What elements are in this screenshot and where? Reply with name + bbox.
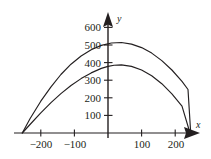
y-axis-label: y xyxy=(116,13,122,24)
x-axis-label: x xyxy=(195,119,201,130)
y-tick-label-400: 400 xyxy=(85,57,102,69)
graph-figure: 100 200 300 400 500 600 −200 −100 100 20… xyxy=(0,0,211,159)
x-tick-label-200: 200 xyxy=(168,138,185,150)
y-tick-label-300: 300 xyxy=(85,74,102,86)
y-tick-label-500: 500 xyxy=(85,39,102,51)
parabola-plot: 100 200 300 400 500 600 −200 −100 100 20… xyxy=(0,0,211,159)
inner-parabola-curve xyxy=(22,65,190,133)
y-tick-label-100: 100 xyxy=(85,109,102,121)
y-tick-label-200: 200 xyxy=(85,92,102,104)
y-tick-label-600: 600 xyxy=(85,21,102,33)
x-tick-label-100: 100 xyxy=(134,138,151,150)
x-tick-label-minus200: −200 xyxy=(30,138,53,150)
x-tick-label-minus100: −100 xyxy=(64,138,87,150)
